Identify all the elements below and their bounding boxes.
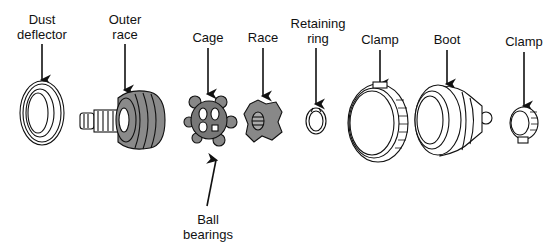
arrow-ball-bearings xyxy=(207,160,216,206)
dust-deflector-part xyxy=(20,81,64,145)
diagram-artwork xyxy=(0,0,552,250)
retaining-ring-part xyxy=(306,108,326,134)
outer-race-part xyxy=(80,91,165,149)
race-part xyxy=(244,100,282,142)
boot-part xyxy=(415,85,492,156)
cage-part xyxy=(184,96,237,146)
clamp-large-part xyxy=(348,82,408,162)
clamp-small-part xyxy=(510,107,538,143)
